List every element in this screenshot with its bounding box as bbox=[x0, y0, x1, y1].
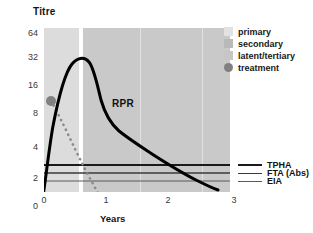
rpr-curve bbox=[44, 58, 218, 192]
y-axis-ticks: 64 32 16 8 4 2 0 bbox=[12, 28, 38, 192]
legend-circle-icon bbox=[224, 63, 233, 72]
legend-swatch-icon bbox=[224, 51, 233, 60]
y-tick-label: 32 bbox=[14, 52, 38, 62]
dotted-decline-curve bbox=[51, 101, 104, 192]
y-tick-label: 2 bbox=[14, 173, 38, 183]
reference-line-swatch-icon bbox=[238, 173, 262, 174]
y-tick-label: 0 bbox=[14, 201, 38, 211]
x-tick-label: 2 bbox=[165, 195, 170, 205]
legend-swatch-icon bbox=[224, 27, 233, 36]
y-axis-title: Titre bbox=[33, 6, 56, 17]
x-axis-title: Years bbox=[100, 213, 125, 224]
x-tick-label: 3 bbox=[231, 195, 236, 205]
legend-swatch-icon bbox=[224, 39, 233, 48]
rpr-curve-label: RPR bbox=[112, 98, 134, 109]
plot-svg bbox=[44, 28, 230, 192]
y-tick-label: 8 bbox=[14, 108, 38, 118]
reference-line-labels: TPHA FTA (Abs) EIA bbox=[238, 0, 313, 233]
treatment-marker bbox=[46, 96, 56, 106]
chart-figure: Titre 64 32 16 8 4 2 0 RPR bbox=[0, 0, 313, 233]
x-tick-label: 1 bbox=[103, 195, 108, 205]
x-tick-label: 0 bbox=[41, 195, 46, 205]
reference-label-eia: EIA bbox=[238, 176, 282, 186]
plot-area: RPR bbox=[44, 28, 230, 192]
reference-label-text: EIA bbox=[267, 176, 282, 186]
y-tick-label: 16 bbox=[14, 80, 38, 90]
reference-line-swatch-icon bbox=[238, 181, 262, 182]
reference-line-swatch-icon bbox=[238, 164, 262, 166]
y-tick-label: 64 bbox=[14, 28, 38, 38]
y-tick-label: 4 bbox=[14, 142, 38, 152]
